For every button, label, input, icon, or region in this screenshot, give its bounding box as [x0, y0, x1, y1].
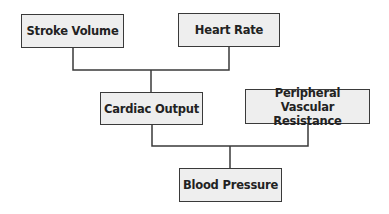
node-peripheral-vascular-resistance: Peripheral Vascular Resistance — [245, 89, 370, 124]
node-label: Heart Rate — [195, 23, 263, 37]
node-cardiac-output: Cardiac Output — [100, 92, 203, 125]
node-label: Stroke Volume — [27, 24, 119, 38]
node-heart-rate: Heart Rate — [178, 13, 280, 47]
node-label: Blood Pressure — [183, 178, 278, 192]
connector-sv-hr-to-co — [73, 47, 229, 70]
node-label: Peripheral Vascular Resistance — [250, 86, 365, 128]
node-stroke-volume: Stroke Volume — [21, 14, 124, 48]
node-label: Cardiac Output — [104, 102, 199, 116]
node-blood-pressure: Blood Pressure — [179, 168, 282, 202]
